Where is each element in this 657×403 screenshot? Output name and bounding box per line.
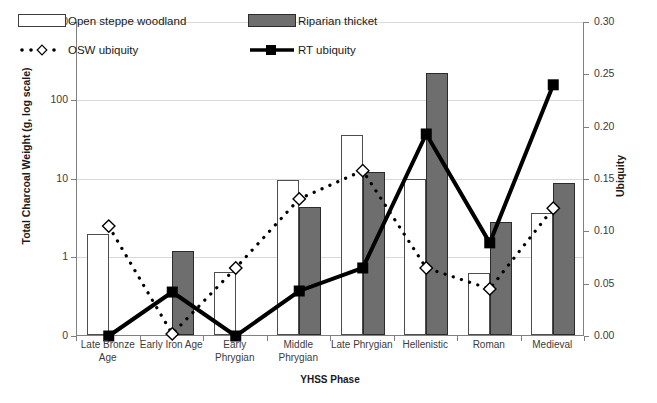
rt-ubiquity-marker: [357, 262, 368, 273]
rt-ubiquity-marker: [421, 128, 432, 139]
legend-label: Riparian thicket: [298, 15, 377, 27]
osw-ubiquity-marker: [547, 202, 559, 214]
x-axis-tick-mark: [457, 336, 458, 341]
x-axis-category-label: Early Phrygian: [203, 339, 267, 364]
bar-open-swatch-icon: [18, 14, 66, 27]
legend-label: RT ubiquity: [298, 44, 356, 56]
right-axis-tick-label: 0.15: [594, 173, 636, 183]
left-axis-tick-label: 100: [24, 94, 68, 104]
line-series-layer: [77, 22, 585, 336]
osw-ubiquity-marker: [357, 164, 369, 176]
x-axis-tick-mark: [203, 336, 204, 341]
charcoal-ubiquity-chart: Total Charcoal Weight (g, log scale) Ubi…: [0, 0, 657, 403]
x-axis-category-label: Late Bronze Age: [76, 339, 140, 364]
right-axis-tick-label: 0.05: [594, 278, 636, 288]
right-axis-tick-label: 0.20: [594, 121, 636, 131]
osw-ubiquity-marker: [293, 193, 305, 205]
x-axis-category-label: Hellenistic: [394, 339, 458, 352]
plot-area: [76, 22, 584, 336]
x-axis-tick-mark: [76, 336, 77, 341]
x-axis-tick-mark: [521, 336, 522, 341]
rt-ubiquity-marker: [294, 285, 305, 296]
left-axis-tick-label: 10: [24, 173, 68, 183]
x-axis-tick-mark: [330, 336, 331, 341]
x-axis-tick-mark: [584, 336, 585, 341]
right-axis-tick-label: 0.00: [594, 330, 636, 340]
osw-ubiquity-marker: [103, 220, 115, 232]
rt-ubiquity-line: [109, 85, 554, 336]
osw-ubiquity-marker: [484, 283, 496, 295]
dotted-line-diamond-swatch-icon: [18, 43, 66, 57]
legend-item-osw-ubiquity: OSW ubiquity: [18, 43, 248, 57]
x-axis-category-label: Late Phrygian: [330, 339, 394, 352]
legend-item-rt-ubiquity: RT ubiquity: [248, 43, 478, 57]
left-axis-tick-label: 0: [24, 330, 68, 340]
legend-item-riparian-thicket: Riparian thicket: [248, 14, 478, 27]
x-axis-category-label: Early Iron Age: [140, 339, 204, 352]
x-axis-category-label: Roman: [457, 339, 521, 352]
bar-filled-swatch-icon: [248, 14, 296, 27]
x-axis-tick-mark: [267, 336, 268, 341]
x-axis-category-label: Middle Phrygian: [267, 339, 331, 364]
right-axis-tick-label: 0.30: [594, 16, 636, 26]
osw-ubiquity-line: [109, 171, 554, 334]
left-axis-title: Total Charcoal Weight (g, log scale): [20, 36, 32, 276]
x-axis-category-labels: Late Bronze AgeEarly Iron AgeEarly Phryg…: [76, 339, 584, 375]
legend-label: OSW ubiquity: [68, 44, 138, 56]
rt-ubiquity-marker: [167, 287, 178, 298]
chart-legend: Open steppe woodland Riparian thicket OS…: [18, 14, 488, 57]
legend-label: Open steppe woodland: [68, 15, 186, 27]
x-axis-category-label: Medieval: [521, 339, 585, 352]
x-axis-tick-mark: [394, 336, 395, 341]
x-axis-tick-mark: [140, 336, 141, 341]
solid-line-square-swatch-icon: [248, 43, 296, 57]
rt-ubiquity-marker: [548, 79, 559, 90]
x-axis-title: YHSS Phase: [76, 374, 584, 385]
right-axis-tick-label: 0.25: [594, 68, 636, 78]
rt-ubiquity-marker: [484, 237, 495, 248]
right-axis-tick-label: 0.10: [594, 225, 636, 235]
left-axis-tick-label: 1: [24, 251, 68, 261]
legend-item-open-steppe-woodland: Open steppe woodland: [18, 14, 248, 27]
